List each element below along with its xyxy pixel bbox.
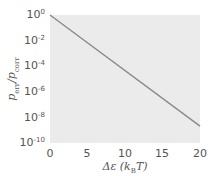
y-tick-2: 10-4 xyxy=(24,60,45,71)
y-tick-1: 10-2 xyxy=(24,35,45,46)
y-tick-3: 10-6 xyxy=(24,86,45,97)
x-tick-1: 5 xyxy=(77,147,97,160)
y-axis-label: perr/pcorr xyxy=(5,57,20,100)
y-tick-0: 100 xyxy=(27,9,45,20)
x-tick-4: 20 xyxy=(190,147,210,160)
x-tick-3: 15 xyxy=(152,147,172,160)
x-tick-0: 0 xyxy=(40,147,60,160)
x-tick-2: 10 xyxy=(115,147,135,160)
x-axis-label: Δε (kBT) xyxy=(95,160,155,175)
y-tick-4: 10-8 xyxy=(24,112,45,123)
